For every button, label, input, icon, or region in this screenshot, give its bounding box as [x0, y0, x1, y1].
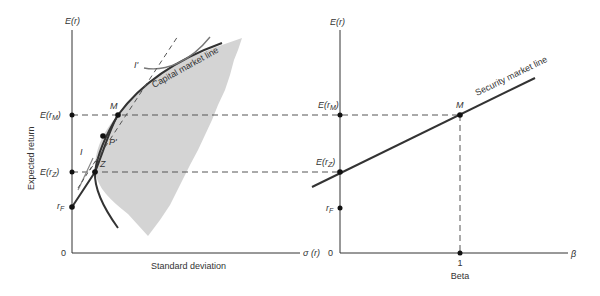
- point-rf-axis: [69, 204, 75, 210]
- left-origin-label: 0: [61, 248, 66, 258]
- right-chart: E(r) 0 1 Beta β E(rM) E(rZ) rF M Securit…: [312, 17, 576, 281]
- point-M: [115, 112, 121, 118]
- x-axis-title: Standard deviation: [151, 261, 226, 271]
- point-erm-axis: [70, 113, 75, 118]
- left-tick-erz: E(rZ): [40, 167, 59, 178]
- right-y-axis-label: E(r): [330, 17, 345, 27]
- left-tick-erm: E(rM): [40, 110, 61, 121]
- right-point-M: [457, 112, 463, 118]
- right-point-erz: [337, 169, 343, 175]
- label-I-prime: I': [134, 60, 139, 70]
- beta-axis-symbol: β: [570, 249, 576, 259]
- right-point-rf: [338, 206, 343, 211]
- point-P-prime: [100, 133, 106, 139]
- sml-label: Security market line: [473, 54, 548, 98]
- right-point-erm: [338, 113, 343, 118]
- label-M: M: [110, 101, 118, 111]
- point-Z: [92, 169, 98, 175]
- left-y-axis-label: E(r): [65, 16, 80, 26]
- label-P-prime: P': [109, 137, 117, 147]
- right-origin-label: 0: [328, 248, 333, 258]
- point-erz-axis: [70, 170, 75, 175]
- label-Z: Z: [99, 159, 106, 169]
- y-axis-title: Expected return: [26, 126, 36, 190]
- capm-diagram: E(r) 0 Expected return Standard deviatio…: [0, 0, 600, 296]
- right-tick-erz: E(rZ): [316, 157, 335, 168]
- right-point-beta-one: [458, 251, 463, 256]
- security-market-line: [312, 78, 535, 187]
- label-I: I: [80, 147, 83, 157]
- right-tick-rf: rF: [326, 203, 334, 214]
- sigma-axis-symbol: σ (r): [303, 248, 320, 258]
- right-label-M: M: [456, 100, 464, 110]
- beta-axis-title: Beta: [451, 271, 470, 281]
- right-tick-erm: E(rM): [318, 100, 339, 111]
- beta-tick-1: 1: [457, 258, 462, 268]
- left-chart: E(r) 0 Expected return Standard deviatio…: [26, 16, 460, 271]
- left-tick-rf: rF: [57, 201, 65, 212]
